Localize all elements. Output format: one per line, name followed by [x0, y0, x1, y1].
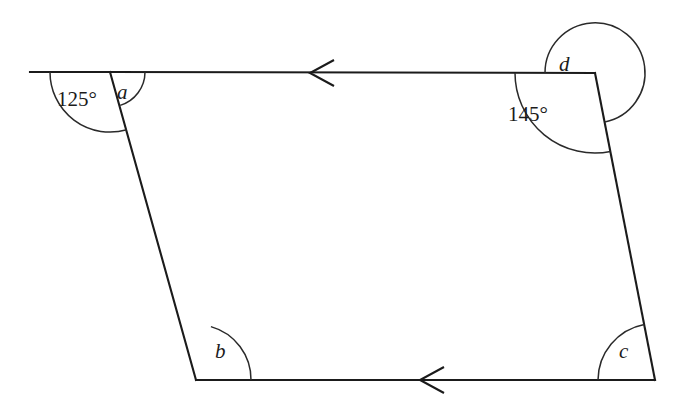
edge-top [110, 72, 595, 73]
quadrilateral-figure [0, 0, 674, 411]
edge-left [110, 72, 196, 380]
angle-label-b: b [215, 341, 226, 362]
geometry-diagram: 125° a 145° d b c [0, 0, 674, 411]
angle-label-145: 145° [508, 104, 548, 125]
edge-right [595, 73, 655, 380]
angle-label-c: c [619, 341, 628, 362]
angle-label-a: a [117, 82, 128, 103]
angle-label-d: d [559, 54, 570, 75]
angle-label-125: 125° [57, 89, 97, 110]
